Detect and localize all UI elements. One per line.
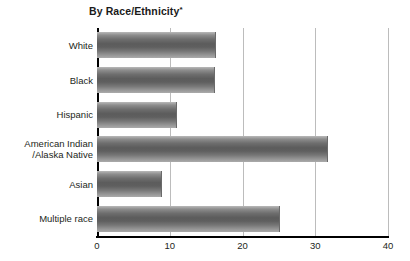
bar: [97, 32, 216, 58]
x-tick-label-40: 40: [383, 240, 394, 251]
y-axis-label: Multiple race: [5, 213, 93, 224]
chart-title-text: By Race/Ethnicity: [89, 5, 179, 17]
chart-title: By Race/Ethnicity*: [89, 5, 183, 17]
x-tick-label-0: 0: [94, 240, 99, 251]
bar-row: [97, 32, 388, 58]
bar-row: [97, 67, 388, 93]
x-tick-label-10: 10: [164, 240, 175, 251]
bar-row: [97, 206, 388, 232]
y-axis-label: Black: [5, 75, 93, 86]
y-axis-label: American Indian /Alaska Native: [5, 138, 93, 160]
bar: [97, 67, 215, 93]
bar-chart: By Race/Ethnicity* WhiteBlackHispanicAme…: [0, 0, 410, 261]
bar: [97, 206, 280, 232]
x-tick-label-20: 20: [237, 240, 248, 251]
x-tick-label-30: 30: [310, 240, 321, 251]
bar-row: [97, 171, 388, 197]
y-axis-label: Asian: [5, 179, 93, 190]
x-axis-tick-labels: 010203040: [0, 240, 410, 256]
bar-row: [97, 102, 388, 128]
bar: [97, 136, 328, 162]
bar: [97, 171, 162, 197]
bar-row: [97, 136, 388, 162]
y-axis-label: White: [5, 40, 93, 51]
x-axis-line: [96, 236, 389, 238]
bar: [97, 102, 177, 128]
y-axis-label: Hispanic: [5, 109, 93, 120]
plot-area: [97, 28, 388, 236]
y-axis-labels: WhiteBlackHispanicAmerican Indian /Alask…: [2, 28, 93, 236]
chart-title-footnote-marker: *: [179, 5, 182, 14]
gridline-40: [388, 28, 389, 236]
